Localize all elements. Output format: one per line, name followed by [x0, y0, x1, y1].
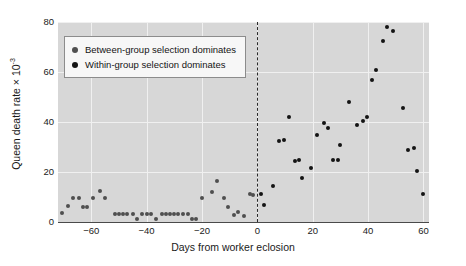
data-point	[271, 184, 275, 188]
data-point	[277, 139, 281, 143]
legend-label-between: Between-group selection dominates	[85, 44, 236, 55]
x-axis-title: Days from worker eclosion	[0, 241, 466, 253]
data-point	[385, 25, 389, 29]
data-point	[181, 212, 185, 216]
x-tick-label: 40	[348, 225, 388, 236]
data-point	[401, 106, 405, 110]
data-point	[60, 211, 64, 215]
data-point	[415, 169, 419, 173]
data-point	[215, 179, 219, 183]
y-tick-label: 20	[26, 167, 54, 176]
x-tick-label: 20	[293, 225, 333, 236]
legend-marker-icon-within	[72, 62, 78, 68]
gridline-vertical	[368, 22, 369, 222]
gridline-horizontal	[58, 22, 429, 23]
data-point	[282, 138, 286, 142]
eclosion-reference-line	[257, 22, 258, 222]
gridline-horizontal	[58, 122, 429, 123]
legend-item-between-group: Between-group selection dominates	[72, 42, 236, 57]
data-point	[297, 158, 301, 162]
y-axis-title-text: Queen death rate × 10	[10, 64, 22, 169]
data-point	[315, 133, 319, 137]
data-point	[374, 68, 378, 72]
data-point	[421, 192, 425, 196]
y-axis-title-exponent: -3	[9, 58, 16, 64]
data-point	[71, 196, 75, 200]
data-point	[66, 204, 70, 208]
data-point	[391, 29, 395, 33]
x-tick-label: 0	[237, 225, 277, 236]
data-point	[242, 214, 246, 218]
data-point	[125, 212, 129, 216]
data-point	[326, 126, 330, 130]
data-point	[149, 212, 153, 216]
data-point	[222, 196, 226, 200]
data-point	[262, 203, 266, 207]
chart-figure: 020406080 Between-group selection domina…	[0, 0, 466, 266]
gridline-horizontal	[58, 172, 429, 173]
data-point	[186, 212, 190, 216]
data-point	[176, 212, 180, 216]
data-point	[140, 212, 144, 216]
data-point	[287, 115, 291, 119]
data-point	[338, 143, 342, 147]
data-point	[370, 78, 374, 82]
data-point	[251, 193, 255, 197]
legend-item-within-group: Within-group selection dominates	[72, 57, 236, 72]
gridline-vertical	[313, 22, 314, 222]
data-point	[194, 217, 198, 221]
data-point	[210, 190, 214, 194]
y-tick-label: 80	[26, 17, 54, 26]
y-axis-title: Queen death rate × 10-3	[9, 14, 25, 214]
data-point	[381, 39, 385, 43]
legend-label-within: Within-group selection dominates	[85, 59, 225, 70]
data-point	[200, 196, 204, 200]
y-tick-label: 60	[26, 67, 54, 76]
legend-marker-icon-between	[72, 47, 78, 53]
data-point	[232, 213, 236, 217]
data-point	[91, 196, 95, 200]
data-point	[135, 217, 139, 221]
data-point	[85, 205, 89, 209]
data-point	[154, 217, 158, 221]
data-point	[226, 205, 230, 209]
data-point	[355, 123, 359, 127]
data-point	[236, 210, 240, 214]
x-axis-title-text: Days from worker eclosion	[171, 241, 295, 253]
data-point	[77, 196, 81, 200]
data-point	[259, 192, 263, 196]
data-point	[361, 119, 365, 123]
x-tick-label: −40	[127, 225, 167, 236]
data-point	[322, 121, 326, 125]
data-point	[98, 189, 102, 193]
chart-legend: Between-group selection dominates Within…	[64, 36, 246, 78]
data-point	[336, 158, 340, 162]
data-point	[103, 196, 107, 200]
data-point	[412, 146, 416, 150]
data-point	[347, 100, 351, 104]
data-point	[365, 115, 369, 119]
x-axis-line	[58, 222, 429, 223]
data-point	[406, 148, 410, 152]
data-point	[300, 176, 304, 180]
data-point	[331, 158, 335, 162]
x-tick-label: −20	[182, 225, 222, 236]
data-point	[131, 212, 135, 216]
data-point	[145, 212, 149, 216]
x-tick-label: 60	[403, 225, 443, 236]
x-axis-tick-labels: −60−40−200204060	[0, 225, 466, 241]
y-tick-label: 40	[26, 117, 54, 126]
x-tick-label: −60	[71, 225, 111, 236]
